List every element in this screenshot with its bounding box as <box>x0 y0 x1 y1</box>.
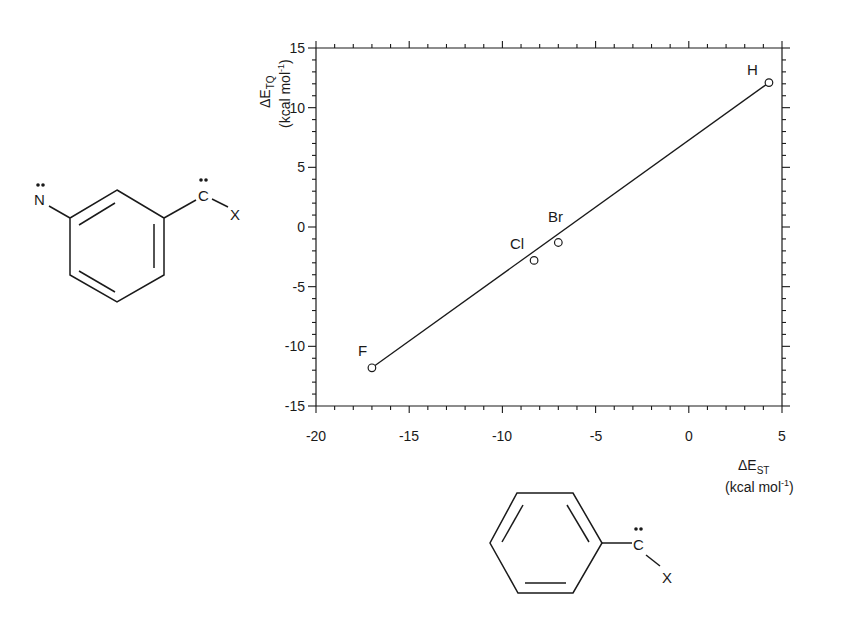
carbon-atom: C <box>198 187 209 204</box>
fit-line <box>372 83 769 368</box>
bond-n <box>49 206 70 218</box>
y-units-sup: -1 <box>276 64 286 72</box>
x-tick-label: -10 <box>492 428 512 444</box>
data-series <box>368 79 773 372</box>
x-units-pre: (kcal mol <box>725 479 781 495</box>
y-title-sub: TQ <box>265 75 276 89</box>
double-bond <box>567 505 589 542</box>
plot-frame <box>316 48 782 406</box>
lone-pair-dot <box>204 178 208 182</box>
x-tick-label: 5 <box>778 428 786 444</box>
y-tick-label: -5 <box>293 279 306 295</box>
y-axis-units: (kcal mol-1) <box>276 59 293 128</box>
y-tick-label: 0 <box>297 219 305 235</box>
nitrogen-atom: N <box>34 191 45 208</box>
x-axis-title: ΔEST (kcal mol-1) <box>725 457 794 495</box>
x-title-sub: ST <box>757 465 770 476</box>
molecule-phenyl-carbene: C X <box>490 493 672 593</box>
y-axis-title: ΔETQ <box>257 75 276 108</box>
y-tick-label: -10 <box>285 338 305 354</box>
point-label-cl: Cl <box>510 235 524 252</box>
svg-text:ΔETQ: ΔETQ <box>257 75 276 108</box>
point-label-br: Br <box>548 208 563 225</box>
data-point-h <box>765 79 773 87</box>
data-point-f <box>368 364 376 372</box>
data-point-br <box>555 239 563 247</box>
benzene-ring <box>490 493 602 593</box>
y-units-pre: (kcal mol <box>277 72 293 128</box>
x-title-main: ΔE <box>738 457 757 473</box>
double-bond <box>502 505 523 542</box>
molecule-nitrene-carbene: N C X <box>34 178 240 302</box>
point-label-f: F <box>358 342 367 359</box>
x-tick-label: 0 <box>685 428 693 444</box>
svg-text:ΔEST: ΔEST <box>738 457 769 476</box>
y-tick-label: -15 <box>285 398 305 414</box>
benzene-ring <box>70 190 164 302</box>
carbon-atom: C <box>633 536 644 553</box>
x-tick-label: -15 <box>399 428 419 444</box>
double-bond <box>79 271 115 292</box>
x-units-post: ) <box>789 479 794 495</box>
lone-pair-dot <box>639 527 643 531</box>
substituent-x: X <box>662 569 672 586</box>
substituent-x: X <box>230 206 240 223</box>
lone-pair-dot <box>41 183 45 187</box>
lone-pair-dot <box>634 527 638 531</box>
lone-pair-dot <box>36 183 40 187</box>
y-units-post: ) <box>277 59 293 64</box>
x-tick-label: -20 <box>306 428 326 444</box>
y-tick-label: 15 <box>289 40 305 56</box>
lone-pair-dot <box>199 178 203 182</box>
y-tick-label: 5 <box>297 159 305 175</box>
data-point-cl <box>530 257 538 265</box>
bond-c <box>164 200 196 218</box>
bond-x <box>212 199 228 207</box>
x-units-sup: -1 <box>781 478 789 488</box>
svg-text:(kcal mol-1): (kcal mol-1) <box>276 59 293 128</box>
bond-x <box>646 555 660 566</box>
point-label-h: H <box>747 61 758 78</box>
svg-text:(kcal mol-1): (kcal mol-1) <box>725 478 794 495</box>
x-tick-label: -5 <box>590 428 603 444</box>
figure: 15 10 5 0 -5 -10 -15 -20 -15 -10 -5 0 5 … <box>0 0 847 624</box>
y-title-main: ΔE <box>257 89 273 108</box>
point-labels: F Cl Br H <box>358 61 758 359</box>
axis-ticks <box>308 41 790 413</box>
x-tick-labels: -20 -15 -10 -5 0 5 <box>306 428 786 444</box>
double-bond <box>79 203 115 225</box>
